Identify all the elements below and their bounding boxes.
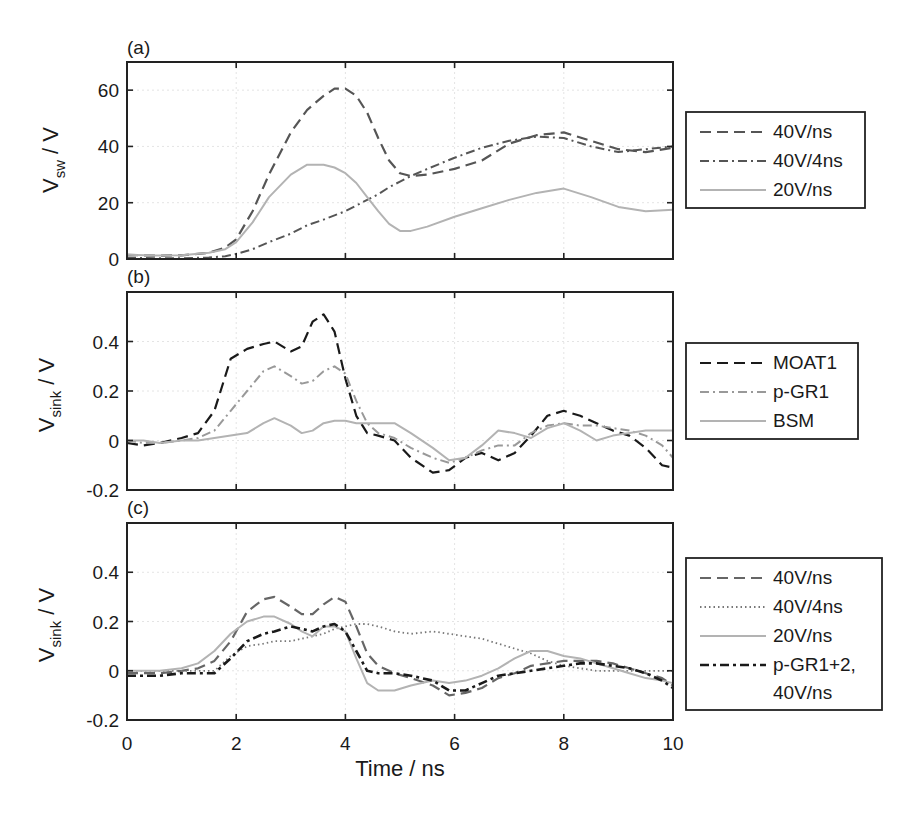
panel-a-axes-box [127, 62, 673, 259]
y-tick-label: 0.2 [93, 612, 119, 633]
x-tick-label: 0 [122, 733, 133, 754]
legend-entry-label: 20V/ns [773, 179, 832, 200]
ylabel-subscript: sw [51, 160, 68, 179]
y-tick-label: 60 [98, 80, 119, 101]
ylabel-unit: / V [34, 587, 59, 620]
legend-entry-label: 40V/ns [773, 682, 832, 703]
panel-a-label: (a) [127, 37, 150, 58]
series-line-3 [127, 624, 673, 691]
figure: (a) 0204060 Vsw / V 40V/ns40V/4ns20V/ns … [0, 0, 907, 813]
panel-b: (b) -0.200.20.4 Vsink / V MOAT1p-GR1BSM [34, 266, 858, 501]
series-line-2 [127, 418, 673, 460]
series-line-2 [127, 165, 673, 256]
legend-entry-label: 20V/ns [773, 625, 832, 646]
y-tick-label: 0 [108, 431, 119, 452]
legend-entry-label: p-GR1 [773, 381, 829, 402]
panel-c-y-axis-label: Vsink / V [34, 587, 64, 662]
panel-a-legend: 40V/ns40V/4ns20V/ns [686, 112, 865, 208]
panel-c: (c) -0.200.20.4 Vsink / V 40V/ns40V/4ns2… [34, 497, 882, 781]
panel-c-series [127, 597, 673, 696]
series-line-1 [127, 366, 673, 463]
ylabel-main: V [34, 417, 59, 432]
panel-a-y-tick-labels: 0204060 [98, 80, 119, 270]
x-tick-label: 8 [559, 733, 570, 754]
svg-text:Vsw / V: Vsw / V [38, 127, 68, 193]
panel-a-ticks [127, 62, 673, 259]
legend-entry-label: MOAT1 [773, 352, 837, 373]
ylabel-main: V [38, 178, 63, 193]
panel-b-legend: MOAT1p-GR1BSM [686, 343, 858, 439]
legend-entry-label: BSM [773, 410, 814, 431]
x-tick-label: 6 [449, 733, 460, 754]
panel-a-y-axis-label: Vsw / V [38, 127, 68, 193]
y-tick-label: 0.2 [93, 381, 119, 402]
svg-text:Vsink / V: Vsink / V [34, 357, 64, 432]
x-tick-labels: 0246810 [122, 733, 684, 754]
panel-a: (a) 0204060 Vsw / V 40V/ns40V/4ns20V/ns [38, 37, 865, 270]
panel-a-grid [127, 62, 673, 259]
series-line-2 [127, 617, 673, 691]
x-tick-label: 2 [231, 733, 242, 754]
legend-entry-label: 40V/4ns [773, 596, 843, 617]
panel-b-label: (b) [127, 266, 150, 287]
y-tick-label: -0.2 [86, 480, 119, 501]
legend-entry-label: 40V/ns [773, 121, 832, 142]
y-tick-label: 0.4 [93, 562, 120, 583]
panel-c-y-tick-labels: -0.200.20.4 [86, 562, 119, 731]
panel-b-y-axis-label: Vsink / V [34, 357, 64, 432]
ylabel-main: V [34, 647, 59, 662]
y-tick-label: 0 [108, 661, 119, 682]
ylabel-subscript: sink [47, 390, 64, 417]
legend-entry-label: p-GR1+2, [773, 654, 856, 675]
x-tick-label: 4 [340, 733, 351, 754]
panel-c-legend: 40V/ns40V/4ns20V/nsp-GR1+2,40V/ns [686, 558, 882, 710]
panel-a-series [127, 89, 673, 259]
panel-c-grid [127, 523, 673, 720]
ylabel-unit: / V [34, 357, 59, 390]
panel-b-series [127, 314, 673, 472]
panel-b-grid [127, 292, 673, 490]
x-axis-label: Time / ns [355, 756, 445, 781]
x-tick-label: 10 [662, 733, 683, 754]
ylabel-subscript: sink [47, 620, 64, 647]
panel-c-label: (c) [127, 497, 149, 518]
y-tick-label: 0 [108, 249, 119, 270]
y-tick-label: -0.2 [86, 710, 119, 731]
y-tick-label: 20 [98, 193, 119, 214]
ylabel-unit: / V [38, 127, 63, 160]
y-tick-label: 40 [98, 136, 119, 157]
series-line-0 [127, 597, 673, 696]
legend-entry-label: 40V/ns [773, 567, 832, 588]
legend-entry-label: 40V/4ns [773, 150, 843, 171]
svg-text:Vsink / V: Vsink / V [34, 587, 64, 662]
series-line-0 [127, 314, 673, 472]
panel-b-y-tick-labels: -0.200.20.4 [86, 332, 119, 502]
y-tick-label: 0.4 [93, 332, 120, 353]
